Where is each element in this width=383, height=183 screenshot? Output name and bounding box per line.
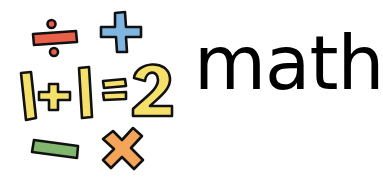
minus-icon [32,140,78,158]
math-symbols-illustration [0,0,190,183]
divide-icon [33,20,77,56]
equation-icon [21,64,172,120]
page-title: math [194,26,383,100]
multiply-icon [103,128,143,169]
plus-icon [101,12,141,52]
